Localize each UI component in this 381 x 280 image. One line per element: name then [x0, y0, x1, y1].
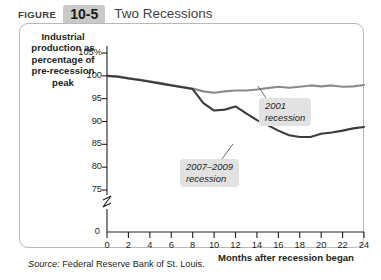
y-axis-ticks	[102, 53, 107, 190]
callout-2001-line2: recession	[265, 112, 305, 124]
x-tick-label: 6	[159, 240, 183, 250]
figure-container: FIGURE 10-5 Two Recessions Industrial pr…	[0, 0, 381, 280]
x-axis-title: Months after recession began	[218, 252, 354, 263]
y-tick-label: 75	[58, 184, 102, 194]
y-tick-label: 90	[58, 116, 102, 126]
callout-2001-line1: 2001	[265, 100, 305, 112]
callout-2001-recession: 2001 recession	[259, 98, 311, 126]
x-tick-label: 4	[138, 240, 162, 250]
callout-2007-2009-line1: 2007–2009	[186, 161, 233, 173]
source-text: Federal Reserve Bank of St. Louis.	[62, 259, 204, 269]
series-line-2001-recession	[107, 76, 364, 93]
y-axis-zero-label: 0	[78, 226, 100, 236]
x-tick-label: 12	[224, 240, 248, 250]
x-tick-label: 24	[352, 240, 376, 250]
x-tick-label: 20	[309, 240, 333, 250]
source-label: Source:	[28, 259, 60, 269]
x-tick-label: 18	[288, 240, 312, 250]
callout-leader-2007-2009	[222, 144, 233, 159]
y-tick-label: 95	[58, 93, 102, 103]
x-tick-label: 14	[245, 240, 269, 250]
y-tick-label: 105%	[58, 47, 102, 57]
y-tick-label: 85	[58, 138, 102, 148]
y-axis-break-icon	[103, 196, 111, 207]
x-axis-ticks	[107, 232, 364, 238]
x-tick-label: 16	[266, 240, 290, 250]
callout-2007-2009-recession: 2007–2009 recession	[180, 159, 239, 187]
y-tick-label: 80	[58, 161, 102, 171]
source-note: Source: Federal Reserve Bank of St. Loui…	[28, 259, 205, 269]
x-tick-label: 22	[331, 240, 355, 250]
y-tick-label: 100	[58, 70, 102, 80]
x-tick-label: 8	[181, 240, 205, 250]
x-tick-label: 10	[202, 240, 226, 250]
x-tick-label: 2	[116, 240, 140, 250]
callout-2007-2009-line2: recession	[186, 173, 233, 185]
x-tick-label: 0	[95, 240, 119, 250]
